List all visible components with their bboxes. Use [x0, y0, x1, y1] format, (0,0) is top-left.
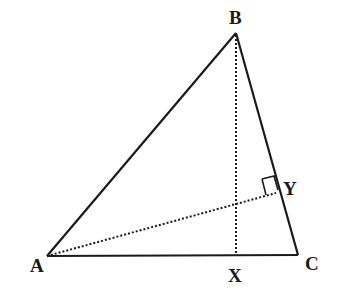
label-b: B [229, 7, 242, 28]
label-c: C [305, 253, 319, 274]
side-bc [236, 33, 298, 255]
triangle-diagram: A B C X Y [0, 0, 339, 301]
side-ac [47, 255, 298, 256]
label-x: X [228, 265, 242, 286]
right-angle-marker-y-leg [262, 179, 266, 195]
side-ab [47, 33, 236, 256]
label-y: Y [283, 178, 297, 199]
label-a: A [30, 255, 44, 276]
altitude-ay [47, 193, 276, 256]
